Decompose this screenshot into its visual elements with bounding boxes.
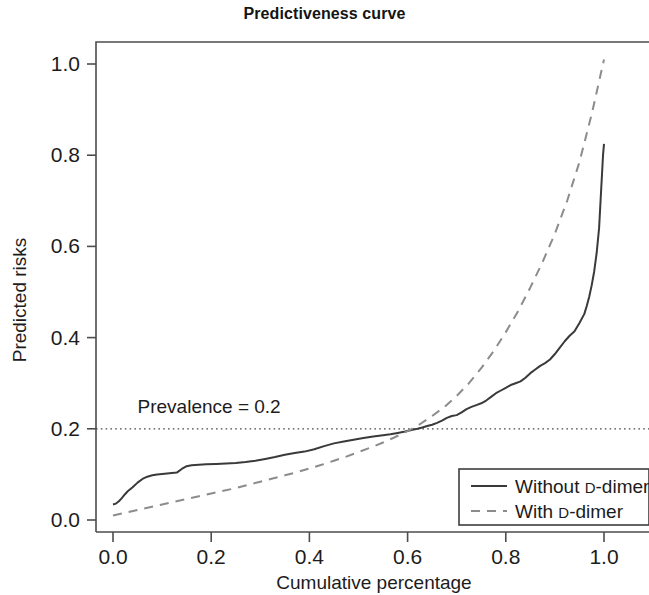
x-tick-label: 1.0 — [589, 545, 618, 568]
x-tick-label: 0.0 — [98, 545, 127, 568]
prevalence-annotation: Prevalence = 0.2 — [96, 396, 649, 429]
y-tick-label: 0.2 — [51, 417, 80, 440]
data-series-group — [113, 59, 604, 515]
x-tick-label: 0.2 — [197, 545, 226, 568]
legend-label: Without D-dimer — [515, 476, 649, 497]
y-tick-label: 0.4 — [51, 326, 81, 349]
y-tick-label: 0.8 — [51, 143, 80, 166]
x-tick-label: 0.8 — [491, 545, 520, 568]
y-axis-title: Predicted risks — [9, 238, 30, 363]
x-tick-label: 0.4 — [295, 545, 325, 568]
predictiveness-curve-figure: Predictiveness curve 0.00.20.40.60.81.0 … — [0, 0, 649, 595]
prevalence-label: Prevalence = 0.2 — [138, 396, 281, 417]
y-tick-label: 0.6 — [51, 234, 80, 257]
plot-frame — [96, 42, 649, 532]
x-axis-title: Cumulative percentage — [276, 572, 471, 593]
legend-label: With D-dimer — [515, 501, 624, 522]
x-tick-label: 0.6 — [393, 545, 422, 568]
series-line-with-d-dimer — [113, 59, 604, 515]
series-line-without-d-dimer — [113, 144, 604, 505]
chart-plot-area: 0.00.20.40.60.81.0 0.00.20.40.60.81.0 Pr… — [0, 0, 649, 595]
y-tick-label: 0.0 — [51, 508, 80, 531]
chart-legend: Without D-dimerWith D-dimer — [459, 469, 649, 525]
y-axis: 0.00.20.40.60.81.0 — [51, 52, 96, 531]
y-tick-label: 1.0 — [51, 52, 80, 75]
x-axis: 0.00.20.40.60.81.0 — [98, 532, 618, 568]
